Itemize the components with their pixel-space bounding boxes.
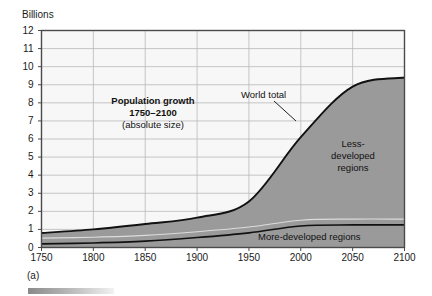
y-axis-tick-label: 2 [14, 206, 34, 216]
chart-title-line-2: 1750–2100 [98, 107, 208, 119]
footer-gradient-bar [28, 288, 114, 294]
y-axis-tick-label: 5 [14, 152, 34, 162]
x-axis-tick-label: 1950 [229, 253, 269, 263]
population-growth-figure: Billions 0123456789101112 17501800185019… [0, 0, 432, 296]
more-developed-label: More-developed regions [258, 231, 398, 243]
x-axis-tick-label: 2100 [385, 253, 425, 263]
y-axis-tick-label: 0 [14, 243, 34, 253]
less-developed-label-line-1: Less- [320, 138, 386, 150]
y-axis-tick-label: 1 [14, 224, 34, 234]
y-axis-tick-label: 11 [14, 44, 34, 54]
panel-label: (a) [27, 270, 39, 281]
y-axis-tick-label: 8 [14, 98, 34, 108]
x-axis-tick-label: 1800 [73, 253, 113, 263]
x-axis-tick-label: 1900 [177, 253, 217, 263]
y-axis-tick-label: 9 [14, 80, 34, 90]
chart-title-line-3: (absolute size) [98, 119, 208, 131]
y-axis-tick-label: 6 [14, 134, 34, 144]
x-axis-tick-label: 1750 [22, 253, 62, 263]
less-developed-label-line-2: developed [320, 150, 386, 162]
less-developed-label-line-3: regions [320, 162, 386, 174]
x-axis-tick-label: 2000 [281, 253, 321, 263]
y-axis-tick-label: 4 [14, 170, 34, 180]
y-axis-tick-label: 10 [14, 62, 34, 72]
x-axis-tick-label: 2050 [333, 253, 373, 263]
world-total-label: World total [241, 89, 311, 101]
y-axis-tick-label: 7 [14, 116, 34, 126]
y-axis-tick-label: 12 [14, 26, 34, 36]
chart-title-line-1: Population growth [98, 95, 208, 107]
y-axis-tick-label: 3 [14, 188, 34, 198]
x-axis-tick-label: 1850 [125, 253, 165, 263]
